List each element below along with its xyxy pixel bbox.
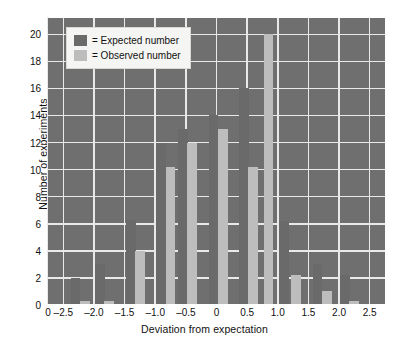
x-axis-tick-labels: 0–2.5–2.0–1.5–1.0–0.500.51.01.52.02.5 bbox=[0, 307, 409, 323]
y-tick-label: 4 bbox=[35, 245, 41, 256]
y-tick-label: 6 bbox=[35, 218, 41, 229]
x-tick-label: 1.0 bbox=[271, 307, 285, 318]
x-tick-label: –2.0 bbox=[84, 307, 103, 318]
bar-observed bbox=[135, 251, 145, 305]
bar-observed bbox=[264, 34, 274, 305]
x-tick-label: 1.5 bbox=[301, 307, 315, 318]
legend-label-expected: = Expected number bbox=[92, 35, 179, 46]
bar-observed bbox=[166, 167, 176, 305]
y-tick-label: 18 bbox=[30, 56, 41, 67]
x-tick-label: 0 bbox=[45, 307, 51, 318]
x-tick-label: –1.0 bbox=[145, 307, 164, 318]
bar-observed bbox=[218, 129, 228, 305]
gridline-horizontal bbox=[48, 88, 385, 90]
legend-label-observed: = Observed number bbox=[92, 50, 181, 61]
x-tick-label: –0.5 bbox=[176, 307, 195, 318]
y-tick-label: 2 bbox=[35, 272, 41, 283]
observed-swatch-icon bbox=[74, 50, 87, 61]
x-axis-line bbox=[47, 304, 386, 306]
x-tick-label: –1.5 bbox=[115, 307, 134, 318]
histogram-figure: Number of experiments 02468101214161820 … bbox=[0, 0, 409, 353]
y-tick-label: 20 bbox=[30, 29, 41, 40]
chart-legend: = Expected number = Observed number bbox=[66, 27, 191, 69]
legend-item-expected: = Expected number bbox=[74, 33, 181, 48]
figure-caption-sliver bbox=[0, 344, 409, 353]
y-tick-label: 14 bbox=[30, 110, 41, 121]
x-tick-label: 0.5 bbox=[240, 307, 254, 318]
y-tick-label: 12 bbox=[30, 137, 41, 148]
x-tick-label: 0 bbox=[214, 307, 220, 318]
legend-item-observed: = Observed number bbox=[74, 48, 181, 63]
x-tick-label: 2.5 bbox=[363, 307, 377, 318]
expected-swatch-icon bbox=[74, 35, 87, 46]
x-tick-label: 2.0 bbox=[332, 307, 346, 318]
x-tick-label: –2.5 bbox=[54, 307, 73, 318]
bar-observed bbox=[291, 275, 301, 305]
bar-expected bbox=[95, 264, 105, 305]
y-tick-label: 16 bbox=[30, 83, 41, 94]
y-tick-label: 8 bbox=[35, 191, 41, 202]
y-tick-label: 10 bbox=[30, 164, 41, 175]
bar-observed bbox=[187, 143, 197, 305]
x-axis-title: Deviation from expectation bbox=[0, 323, 409, 335]
bar-expected bbox=[279, 221, 289, 305]
bar-observed bbox=[248, 167, 258, 305]
y-axis-tick-labels: 02468101214161820 bbox=[0, 0, 46, 353]
bar-observed bbox=[322, 291, 332, 305]
